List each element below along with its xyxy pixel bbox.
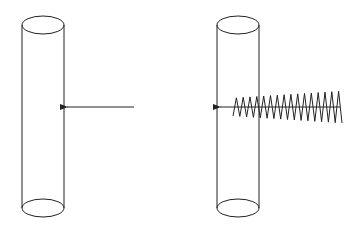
diagram-svg [0, 0, 357, 233]
diagram-canvas [0, 0, 357, 233]
right-cylinder-top [217, 16, 259, 34]
left-cylinder-bottom [22, 199, 64, 217]
left-cylinder [22, 16, 64, 217]
right-cylinder [217, 16, 259, 217]
right-cylinder-bottom [217, 199, 259, 217]
left-cylinder-top [22, 16, 64, 34]
